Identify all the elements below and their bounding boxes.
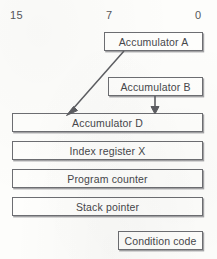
register-label-program-counter: Program counter: [13, 173, 202, 184]
register-label-index-register-x: Index register X: [13, 145, 202, 156]
register-label-condition-code: Condition code: [119, 235, 202, 246]
register-box-condition-code: Condition code: [118, 231, 203, 250]
bit-label-7: 7: [106, 10, 112, 21]
register-box-accumulator-a: Accumulator A: [104, 32, 203, 51]
register-label-stack-pointer: Stack pointer: [13, 201, 202, 212]
register-box-accumulator-d: Accumulator D: [12, 113, 203, 132]
bit-label-0: 0: [195, 10, 201, 21]
register-box-stack-pointer: Stack pointer: [12, 197, 203, 216]
register-label-accumulator-a: Accumulator A: [105, 36, 202, 47]
register-box-index-register-x: Index register X: [12, 141, 203, 160]
register-box-accumulator-b: Accumulator B: [108, 77, 203, 96]
cpu-register-diagram: 15 7 0 Accumulator A Accumulator B Accum…: [0, 0, 217, 259]
register-box-program-counter: Program counter: [12, 169, 203, 188]
register-label-accumulator-b: Accumulator B: [109, 81, 202, 92]
register-label-accumulator-d: Accumulator D: [13, 117, 202, 128]
bit-label-15: 15: [10, 10, 23, 21]
